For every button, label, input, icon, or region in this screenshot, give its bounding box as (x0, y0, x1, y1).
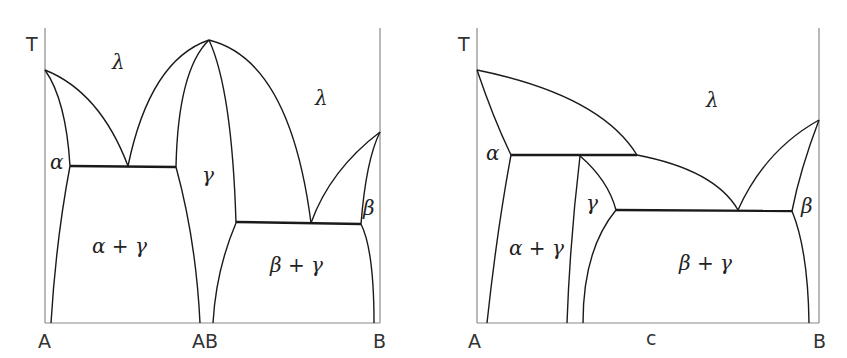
left-alpha-gamma-region-label: α + γ (92, 236, 147, 256)
right-x-label-a: A (468, 332, 481, 351)
right-liquid-region-label: λ (315, 88, 328, 108)
right-x-label-b: B (813, 332, 826, 351)
right-beta-gamma-region-label: β + γ (679, 253, 732, 273)
right-liquidus-middle (637, 155, 738, 210)
left-liquid-region-label: λ (112, 52, 125, 72)
left-temperature-axis-label: T (26, 35, 38, 54)
gamma-solvus-right (583, 210, 616, 323)
right-phase-diagram (477, 28, 819, 323)
gamma-solvus-right (213, 223, 236, 323)
right-temperature-axis-label: T (458, 35, 470, 54)
right-liquidus-a (477, 70, 637, 155)
right-liquid-region-label: λ (706, 90, 719, 110)
right-gamma-region-label: γ (586, 193, 598, 213)
left-solvus-beta (361, 224, 374, 323)
left-liquidus-ab-right (209, 40, 311, 223)
gamma-solidus-left (176, 40, 209, 167)
left-gamma-region-label: γ (202, 165, 214, 185)
right-x-label-c: c (646, 329, 656, 348)
eutectic-line (616, 210, 792, 211)
left-alpha-region-label: α (50, 152, 64, 172)
left-solvus-alpha (51, 166, 70, 323)
right-alpha-region-label: α (486, 143, 500, 163)
left-x-label-b: B (373, 332, 386, 351)
right-beta-region-label: β (801, 196, 813, 216)
left-beta-region-label: β (363, 198, 375, 218)
left-eutectic-line-1 (70, 166, 176, 167)
right-solvus-beta (792, 211, 809, 323)
phase-diagrams-canvas (0, 0, 847, 358)
left-liquidus-ab-left (128, 40, 209, 166)
gamma-boundary-left (567, 156, 580, 323)
left-eutectic-line-2 (236, 222, 361, 224)
gamma-solvus-left (176, 167, 200, 323)
left-x-label-a: A (38, 332, 51, 351)
left-x-label-ab: AB (192, 332, 218, 351)
gamma-solidus-right (209, 40, 236, 223)
left-beta-gamma-region-label: β + γ (270, 255, 323, 275)
right-solvus-alpha (487, 155, 511, 323)
right-alpha-gamma-region-label: α + γ (509, 238, 564, 258)
